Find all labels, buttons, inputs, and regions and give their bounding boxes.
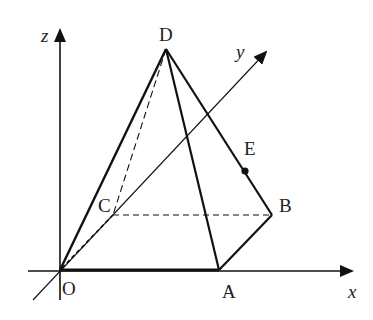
edge-DA — [166, 49, 219, 270]
edge-DB — [166, 49, 272, 215]
point-E-marker — [241, 167, 248, 174]
point-E-label: E — [244, 138, 256, 159]
point-O-label: O — [62, 278, 76, 299]
x-axis-label: x — [347, 281, 357, 302]
z-axis-label: z — [40, 25, 49, 46]
pyramid-diagram: z y x D E B C O A — [0, 0, 373, 320]
edge-AB — [219, 215, 272, 270]
point-B-label: B — [279, 195, 292, 216]
point-A-label: A — [222, 281, 236, 302]
point-C-label: C — [98, 195, 111, 216]
y-axis-label: y — [234, 41, 245, 62]
edge-DC — [113, 49, 166, 215]
edge-DO — [60, 49, 166, 270]
point-D-label: D — [159, 24, 173, 45]
